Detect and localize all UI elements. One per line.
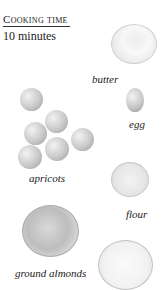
apricot-illustration	[18, 145, 42, 169]
ground-almonds-label: ground almonds	[15, 267, 86, 279]
bowl-illustration	[98, 240, 153, 290]
apricot-illustration	[45, 110, 68, 133]
apricot-illustration	[20, 88, 43, 111]
butter-label: butter	[92, 73, 118, 85]
flour-label: flour	[126, 208, 147, 220]
cooking-time-heading: Cooking time	[3, 13, 70, 27]
apricot-illustration	[71, 128, 94, 151]
apricots-label: apricots	[29, 172, 65, 184]
flour-bowl-illustration	[111, 162, 149, 197]
ground-almonds-bowl-illustration	[22, 205, 79, 257]
egg-illustration	[126, 88, 144, 112]
butter-bowl-illustration	[111, 24, 157, 64]
apricot-illustration	[24, 122, 47, 145]
cooking-time-value: 10 minutes	[3, 29, 56, 44]
egg-label: egg	[129, 118, 145, 130]
apricot-illustration	[45, 137, 69, 161]
